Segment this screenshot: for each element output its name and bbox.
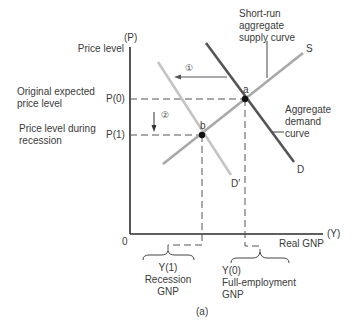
supply-callout-line2: aggregate [239, 20, 284, 32]
label-d-shifted: D′ [231, 178, 240, 190]
desc-p1-line2: recession [19, 135, 62, 147]
x-axis-label: Real GNP [279, 238, 324, 250]
desc-p0-line2: price level [17, 98, 62, 110]
y-axis-label: Price level [40, 43, 124, 55]
arrow-step-2 [152, 112, 157, 132]
origin-label: 0 [122, 236, 128, 248]
label-d: D [297, 164, 304, 176]
guide-lines [130, 99, 260, 252]
label-s: S [306, 43, 313, 55]
tick-y1: Y(1) [140, 262, 196, 274]
desc-p1-line1: Price level during [19, 123, 96, 135]
supply-callout-line3: supply curve [239, 32, 295, 44]
tick-p0: P(0) [106, 93, 125, 105]
point-b-label: b [200, 120, 206, 132]
demand-callout-line1: Aggregate [285, 104, 331, 116]
demand-callout-line3: curve [285, 128, 309, 140]
brace-y0 [231, 252, 289, 263]
demand-callout-line2: demand [285, 116, 321, 128]
desc-y1-line2: GNP [140, 286, 196, 298]
point-a-label: a [243, 84, 249, 96]
point-a [242, 96, 248, 102]
desc-y1-line1: Recession [140, 274, 196, 286]
step-2-marker: ② [161, 109, 169, 121]
step-1-marker: ① [185, 62, 193, 74]
x-axis-symbol: (Y) [327, 228, 340, 240]
arrow-step-1 [174, 75, 227, 80]
desc-p0-line1: Original expected [17, 86, 95, 98]
supply-callout-line1: Short-run [239, 8, 281, 20]
desc-y0-line2: GNP [222, 289, 244, 301]
tick-p1: P(1) [106, 129, 125, 141]
desc-y0-line1: Full-employment [222, 277, 296, 289]
y-axis-symbol: (P) [124, 32, 137, 44]
tick-y0: Y(0) [222, 265, 241, 277]
demand-curve-d [206, 43, 294, 162]
point-b [199, 132, 205, 138]
brace-y1 [143, 251, 194, 260]
figure-caption: (a) [196, 306, 208, 318]
